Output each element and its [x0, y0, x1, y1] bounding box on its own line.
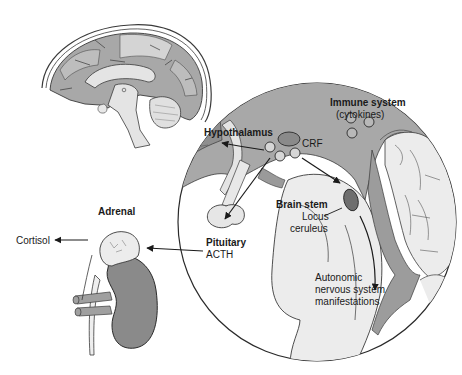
- brain-sagittal-illustration: [42, 25, 211, 148]
- label-autonomic-line2: nervous system: [315, 284, 385, 295]
- label-crf: CRF: [302, 138, 323, 149]
- label-ceruleus: ceruleus: [290, 223, 328, 234]
- label-immune-system: Immune system: [330, 97, 406, 108]
- label-adrenal: Adrenal: [98, 206, 135, 217]
- label-hypothalamus: Hypothalamus: [204, 127, 273, 138]
- kidney-adrenal-illustration: [73, 232, 157, 355]
- label-cortisol: Cortisol: [16, 235, 50, 246]
- label-cytokines: (cytokines): [336, 109, 384, 120]
- label-locus: Locus: [302, 211, 329, 222]
- label-brain-stem: Brain stem: [276, 199, 328, 210]
- label-autonomic-line3: manifestations: [315, 296, 379, 307]
- label-pituitary: Pituitary: [206, 237, 246, 248]
- hpa-axis-diagram: Immune system (cytokines) Hypothalamus C…: [0, 0, 462, 375]
- label-acth: ACTH: [206, 249, 233, 260]
- label-autonomic-line1: Autonomic: [315, 272, 362, 283]
